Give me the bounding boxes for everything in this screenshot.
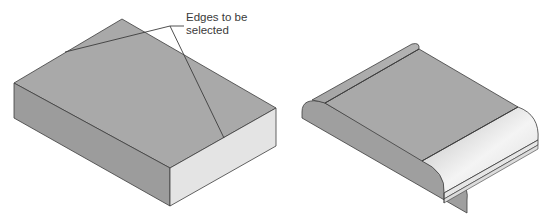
filleted-block [302, 44, 538, 213]
original-block [14, 19, 276, 206]
callout-label: Edges to be selected [186, 11, 247, 37]
callout-line-2: selected [186, 24, 247, 37]
callout-line-1: Edges to be [186, 11, 247, 24]
